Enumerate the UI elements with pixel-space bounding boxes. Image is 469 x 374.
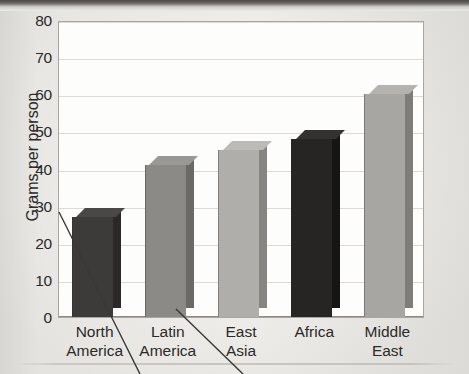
leader-lines	[0, 0, 469, 374]
leader-line-left	[59, 212, 140, 374]
bar-chart: Grams per person 80706050403020100 North…	[0, 0, 469, 374]
leader-line-center	[176, 309, 243, 374]
